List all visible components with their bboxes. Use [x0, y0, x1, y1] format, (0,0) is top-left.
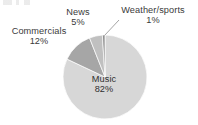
- slice-label-commercials-value: 12%: [2, 36, 76, 46]
- slice-label-news-value: 5%: [56, 17, 100, 27]
- slice-label-music: Music 82%: [78, 74, 130, 95]
- slice-label-news: News 5%: [56, 7, 100, 28]
- pie-chart-figure: Commercials 12% News 5% Weather/sports 1…: [0, 0, 198, 125]
- slice-label-weather-sports-value: 1%: [110, 15, 196, 25]
- slice-label-news-name: News: [56, 7, 100, 17]
- slice-label-music-value: 82%: [78, 84, 130, 94]
- slice-label-commercials: Commercials 12%: [2, 26, 76, 47]
- slice-label-music-name: Music: [78, 74, 130, 84]
- slice-label-weather-sports: Weather/sports 1%: [110, 5, 196, 26]
- slice-label-weather-sports-name: Weather/sports: [110, 5, 196, 15]
